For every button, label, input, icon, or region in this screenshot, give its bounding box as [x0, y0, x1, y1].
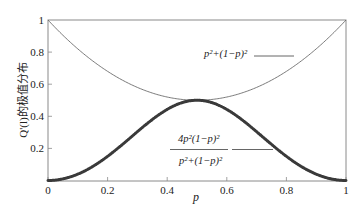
- x-tick-label: 0: [45, 184, 51, 196]
- lower-formula-denominator: p²+(1−p)²: [178, 155, 223, 167]
- x-axis-label: p: [192, 190, 199, 204]
- y-axis-label: Q'(l)的极值分布: [16, 62, 30, 137]
- lower-formula-numerator: 4p²(1−p)²: [178, 133, 220, 145]
- y-axis-ticks: 0.20.40.60.81: [30, 14, 52, 154]
- y-tick-label: 0.2: [30, 142, 44, 154]
- y-tick-label: 0.8: [30, 46, 44, 58]
- x-tick-label: 0.4: [160, 184, 174, 196]
- y-tick-label: 0.4: [30, 110, 44, 122]
- x-tick-label: 1: [343, 184, 349, 196]
- x-tick-label: 0.8: [280, 184, 294, 196]
- x-tick-label: 0.6: [220, 184, 234, 196]
- chart: 00.20.40.60.81 0.20.40.60.81 p²+(1−p)² 4…: [0, 0, 362, 214]
- series-upper-curve: [48, 20, 346, 100]
- y-tick-label: 1: [39, 14, 45, 26]
- upper-formula-label: p²+(1−p)²: [203, 48, 248, 60]
- y-tick-label: 0.6: [30, 78, 44, 90]
- x-tick-label: 0.2: [101, 184, 115, 196]
